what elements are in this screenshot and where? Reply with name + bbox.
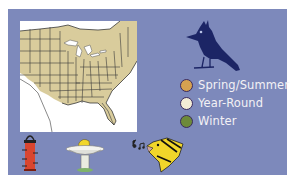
range-map — [20, 21, 137, 132]
jay-silhouette-icon — [182, 17, 244, 75]
singing-bird-icon — [131, 136, 187, 176]
range-card: Spring/Summer Year-Round Winter — [8, 9, 287, 175]
season-legend: Spring/Summer Year-Round Winter — [180, 77, 289, 131]
birdbath-icon — [65, 137, 107, 173]
legend-label: Winter — [198, 114, 237, 128]
winter-swatch-icon — [180, 115, 193, 128]
legend-item-spring-summer: Spring/Summer — [180, 77, 289, 93]
legend-item-year-round: Year-Round — [180, 95, 289, 111]
legend-item-winter: Winter — [180, 113, 289, 129]
legend-label: Year-Round — [198, 96, 263, 110]
year-round-swatch-icon — [180, 97, 193, 110]
legend-label: Spring/Summer — [198, 78, 289, 92]
spring-summer-swatch-icon — [180, 79, 193, 92]
feeder-icon — [22, 132, 38, 174]
range-map-graphic — [20, 21, 137, 132]
